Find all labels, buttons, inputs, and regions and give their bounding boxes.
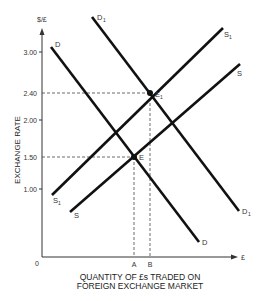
equilibrium-point-e [131, 154, 137, 160]
label-s-bottom: S [74, 211, 79, 220]
guide-lines [42, 93, 150, 257]
origin-label: 0 [35, 260, 39, 267]
svg-text:1: 1 [229, 34, 232, 40]
svg-text:1: 1 [58, 200, 61, 206]
equilibrium-point-e1 [147, 90, 153, 96]
supply-curve-s1 [52, 28, 223, 195]
y-axis-title: EXCHANGE RATE [13, 116, 22, 184]
label-e1: E 1 [155, 90, 163, 100]
x-axis [42, 255, 238, 260]
demand-curve-d1 [92, 17, 239, 211]
tick-3-00: 3.00 [23, 49, 37, 56]
label-d-top: D [55, 40, 61, 49]
tick-1-00: 1.00 [23, 186, 37, 193]
label-d1-bottom: D 1 [242, 207, 251, 217]
label-s-top: S [237, 69, 242, 78]
svg-text:1: 1 [160, 94, 163, 100]
label-d-bottom: D [202, 238, 208, 247]
svg-text:1: 1 [103, 17, 106, 23]
x-axis-title-line2: FOREIGN EXCHANGE MARKET [40, 281, 240, 291]
label-d1-top: D 1 [97, 13, 106, 23]
y-ticks: 3.00 2.40 2.00 1.50 1.00 [23, 49, 42, 193]
tick-1-50: 1.50 [23, 154, 37, 161]
supply-curve-s [70, 64, 240, 212]
label-s1-bottom: S 1 [53, 196, 61, 206]
x-unit-label: £ [241, 254, 245, 261]
label-s1-top: S 1 [224, 30, 232, 40]
exchange-rate-chart: $/£ £ 0 3.00 2.40 2.00 1.50 1.00 EXCHANG… [0, 0, 262, 301]
tick-b: B [148, 261, 153, 268]
y-unit-label: $/£ [37, 16, 47, 23]
y-axis [40, 28, 45, 257]
svg-text:1: 1 [248, 211, 251, 217]
label-e: E [139, 153, 144, 162]
tick-2-00: 2.00 [23, 117, 37, 124]
tick-2-40: 2.40 [23, 90, 37, 97]
tick-a: A [132, 261, 137, 268]
